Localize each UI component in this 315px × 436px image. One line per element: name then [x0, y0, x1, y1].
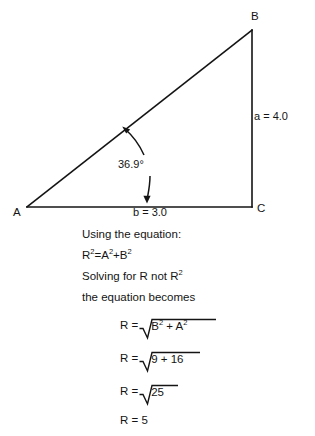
side-length-label-b: b = 3.0 — [133, 207, 167, 218]
radical-sign-icon — [138, 351, 202, 373]
side-length-label-a: a = 4.0 — [254, 111, 288, 122]
work-solving-line: Solving for R not R2 — [82, 271, 183, 283]
radical-sign-icon — [138, 384, 180, 406]
solution-work-block: Using the equation: R2=A2+B2 Solving for… — [0, 225, 315, 436]
pyth-term-a: A — [101, 249, 109, 261]
vertex-label-c: C — [257, 203, 265, 215]
step-3-lhs: R = — [120, 386, 138, 398]
step-3-radical: 25 — [138, 384, 167, 399]
step-1-radical: B2 + A2 — [138, 318, 190, 333]
solving-text: Solving for R not R — [82, 270, 179, 282]
pyth-plus: + — [113, 249, 120, 261]
work-step-2: R = 9 + 16 — [120, 351, 187, 366]
solving-exponent: 2 — [179, 268, 183, 277]
triangle-figure: A B C a = 4.0 b = 3.0 36.9° — [0, 0, 315, 225]
vertex-label-a: A — [13, 207, 21, 219]
work-becomes-line: the equation becomes — [82, 292, 195, 304]
pyth-term-b-exponent: 2 — [127, 247, 131, 256]
vertex-label-b: B — [251, 11, 259, 23]
triangle-hypotenuse-line — [27, 30, 252, 207]
work-step-1: R = B2 + A2 — [120, 318, 190, 333]
work-pythagorean-equation: R2=A2+B2 — [82, 250, 132, 262]
step-2-lhs: R = — [120, 353, 138, 365]
step-1-lhs: R = — [120, 320, 138, 332]
step-2-radical: 9 + 16 — [138, 351, 186, 366]
work-step-3: R = 25 — [120, 384, 167, 399]
work-final-result: R = 5 — [120, 415, 148, 427]
radical-sign-icon — [138, 318, 218, 340]
angle-measure-label: 36.9° — [118, 159, 144, 170]
work-intro-line: Using the equation: — [82, 229, 181, 241]
